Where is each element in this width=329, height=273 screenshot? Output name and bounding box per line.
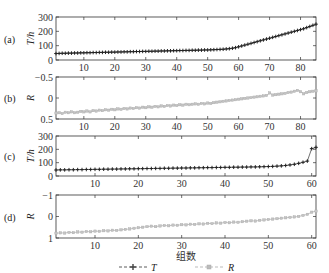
data-point [223,166,227,170]
data-point [85,51,89,55]
data-point [147,49,151,53]
data-point [73,112,75,114]
figure: 10203040506070800100200300(a)T/h10203040… [0,0,329,273]
data-point [89,231,91,233]
x-tick-label: 60 [307,240,317,251]
data-point [135,50,139,54]
y-tick-label: 0 [48,171,53,182]
data-point [102,167,106,171]
data-point [150,225,152,227]
data-point [160,105,162,107]
legend-item-T: T [119,262,158,273]
data-point [182,104,184,106]
data-point [104,50,108,54]
data-point [179,104,181,106]
panel-c: 1020304050600100200300(c)T/h [4,131,318,190]
x-tick-label: 20 [110,121,120,132]
data-point [306,213,308,215]
data-point [254,220,256,222]
data-point [280,217,282,219]
legend-item-R: R [195,262,234,273]
data-point [184,166,188,170]
data-point [156,49,160,53]
data-point [141,226,143,228]
x-tick-label: 10 [79,121,89,132]
data-point [98,109,100,111]
data-point [137,226,139,228]
data-point [55,112,57,114]
data-point [101,51,105,55]
data-point [159,225,161,227]
data-point [146,225,148,227]
data-point [104,109,106,111]
data-point [63,232,65,234]
data-point [54,52,58,56]
data-point [310,211,312,213]
data-point [297,162,301,166]
x-tick-label: 10 [90,178,100,189]
data-point [225,100,227,102]
data-point [297,215,299,217]
x-tick-label: 50 [203,121,213,132]
data-point [314,22,318,26]
data-point [175,49,179,53]
y-tick-label: 0 [48,55,53,66]
data-point [241,220,243,222]
data-point [271,36,275,40]
x-tick-label: 60 [307,178,317,189]
data-point [172,224,174,226]
data-point [258,39,262,43]
data-point [206,222,208,224]
data-point [197,103,199,105]
data-point [80,110,82,112]
x-axis-label: 组数 [176,250,196,262]
x-tick-label: 50 [263,178,273,189]
data-point [301,160,305,164]
data-point [94,51,98,55]
data-point [185,103,187,105]
data-point [281,93,283,95]
data-point [193,48,197,52]
data-point [128,167,132,171]
data-point [153,49,157,53]
data-point [206,102,208,104]
data-point [203,103,205,105]
data-point [54,168,58,172]
data-point [228,47,232,51]
data-point [98,51,102,55]
data-point [137,167,141,171]
data-point [253,96,255,98]
data-point [213,101,215,103]
data-point [290,91,292,93]
data-point [76,168,80,172]
data-point [176,104,178,106]
data-point [124,167,128,171]
data-point [286,31,290,35]
data-point [193,166,197,170]
data-point [107,50,111,54]
data-point [247,97,249,99]
data-point [249,42,253,46]
data-point [306,159,310,163]
data-point [111,229,113,231]
data-point [59,168,63,172]
data-point [81,231,83,233]
x-tick-label: 50 [263,240,273,251]
x-tick-label: 80 [296,121,306,132]
legend-marker-plus-icon [130,264,136,270]
data-point [89,168,93,172]
data-point [262,38,266,42]
data-point [275,164,279,168]
data-point [265,37,269,41]
data-point [200,102,202,104]
data-point [166,104,168,106]
data-point [218,48,222,52]
data-point [176,224,178,226]
data-point [284,164,288,168]
data-point [167,225,169,227]
panel-d: 102030405060−101(d)R [4,190,317,252]
data-point [245,165,249,169]
panel-label: (b) [4,93,16,105]
data-point [138,107,140,109]
data-point [236,165,240,169]
